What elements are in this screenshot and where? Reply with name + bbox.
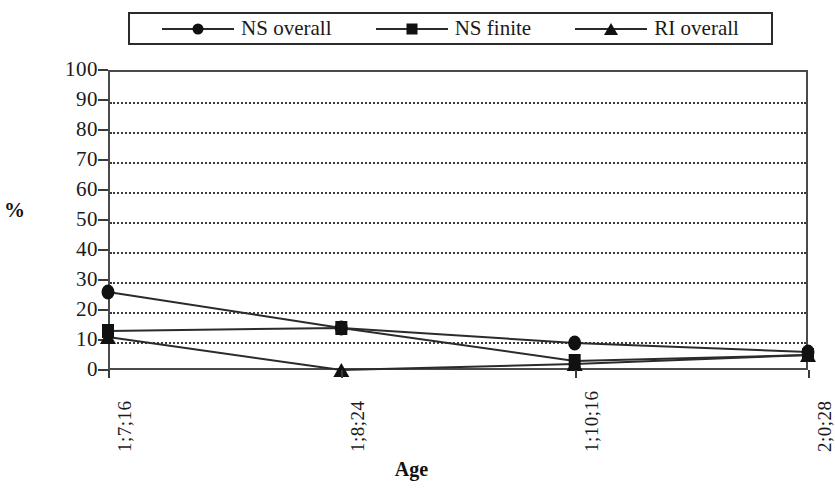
y-tick-label: 90 [36,89,98,110]
y-tick-label: 60 [36,179,98,200]
legend-label-ri-overall: RI overall [654,18,739,39]
y-tick-label: 50 [36,209,98,230]
data-point-ns-overall-0 [102,285,115,300]
y-tick-mark [98,69,108,71]
legend-label-ns-finite: NS finite [455,18,531,39]
y-tick-mark [98,189,108,191]
data-point-ns-overall-2 [568,336,581,351]
y-tick-label: 40 [36,239,98,260]
x-tick-mark [575,370,577,378]
y-tick-mark [98,249,108,251]
triangle-marker-icon [604,23,618,35]
legend-entry-ns-overall: NS overall [162,18,331,39]
y-axis-ticks: 1009080706050403020100 [24,70,98,370]
y-tick-label: 10 [36,329,98,350]
legend-label-ns-overall: NS overall [241,18,331,39]
y-tick-mark [98,369,108,371]
data-point-ns-finite-1 [335,321,347,335]
y-tick-label: 20 [36,299,98,320]
square-marker-icon [406,23,417,34]
y-tick-label: 70 [36,149,98,170]
chart-legend: NS overall NS finite RI overall [128,12,773,45]
data-series-layer [108,70,808,370]
legend-swatch-ns-overall [162,22,234,36]
legend-swatch-ns-finite [376,22,448,36]
x-axis-ticks: 1;7;161;8;241;10;162;0;28 [108,374,808,454]
y-tick-mark [98,279,108,281]
y-tick-label: 30 [36,269,98,290]
y-tick-mark [98,99,108,101]
y-tick-mark [98,129,108,131]
y-tick-mark [98,159,108,161]
y-tick-label: 100 [36,59,98,80]
y-tick-mark [98,309,108,311]
series-line-ns-overall [108,292,808,352]
x-axis-title: Age [0,458,823,481]
x-tick-mark [808,370,810,378]
y-tick-label: 80 [36,119,98,140]
y-axis-title: % [4,198,25,223]
x-tick-mark [341,370,343,378]
circle-marker-icon [193,23,204,34]
y-tick-mark [98,219,108,221]
legend-entry-ri-overall: RI overall [575,18,739,39]
series-line-ns-finite [108,328,808,361]
x-tick-label: 2;0;28 [815,400,834,452]
x-tick-label: 1;8;24 [348,400,367,452]
x-tick-label: 1;10;16 [582,390,601,452]
legend-entry-ns-finite: NS finite [376,18,531,39]
series-line-ri-overall [108,337,808,370]
x-tick-label: 1;7;16 [115,400,134,452]
x-tick-mark [108,370,110,378]
legend-swatch-ri-overall [575,22,647,36]
y-tick-label: 0 [36,359,98,380]
